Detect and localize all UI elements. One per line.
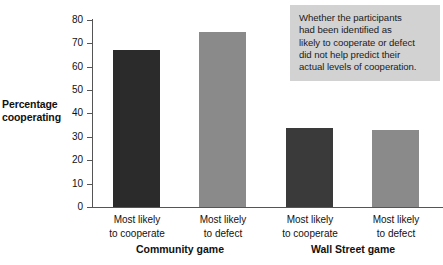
category-label-community-defect: Most likely to defect (175, 213, 271, 240)
category-label-line2: to defect (204, 228, 242, 239)
annotation-box: Whether the participants had been identi… (290, 5, 440, 81)
y-tick-label-10: 10 (72, 177, 83, 190)
bar-community-defect (199, 32, 246, 207)
group-label-community-game: Community game (85, 243, 275, 256)
bar-wallstreet-cooperate (286, 128, 333, 207)
y-tick-0: 0 (87, 207, 92, 208)
category-label-community-cooperate: Most likely to cooperate (89, 213, 185, 240)
y-tick-label-80: 80 (72, 13, 83, 26)
annotation-line-3: likely to cooperate or defect (299, 37, 415, 48)
y-tick-label-60: 60 (72, 60, 83, 73)
y-axis-title-line2: cooperating (2, 111, 61, 123)
category-label-line1: Most likely (287, 214, 334, 225)
bar-wallstreet-defect (372, 130, 419, 207)
category-label-line2: to cooperate (109, 228, 165, 239)
x-axis-line (92, 207, 443, 208)
y-axis-title-line1: Percentage (2, 98, 58, 110)
bar-chart: Percentage cooperating 80 70 60 50 40 30… (0, 0, 443, 265)
annotation-line-4: did not help predict their (299, 49, 400, 60)
annotation-line-2: had been identified as (299, 24, 392, 35)
annotation-line-5: actual levels of cooperation. (299, 61, 416, 72)
y-tick-label-70: 70 (72, 36, 83, 49)
y-tick-label-40: 40 (72, 106, 83, 119)
category-label-line1: Most likely (200, 214, 247, 225)
bar-community-cooperate (113, 50, 160, 207)
category-label-wallstreet-cooperate: Most likely to cooperate (262, 213, 358, 240)
y-tick-label-30: 30 (72, 130, 83, 143)
y-tick-label-0: 0 (77, 200, 83, 213)
y-tick-label-20: 20 (72, 153, 83, 166)
y-axis-title: Percentage cooperating (2, 98, 74, 123)
category-label-line1: Most likely (114, 214, 161, 225)
group-label-wall-street-game: Wall Street game (258, 243, 443, 256)
category-label-line1: Most likely (373, 214, 420, 225)
y-tick-label-50: 50 (72, 83, 83, 96)
annotation-line-1: Whether the participants (299, 12, 402, 23)
category-label-line2: to cooperate (282, 228, 338, 239)
category-label-wallstreet-defect: Most likely to defect (348, 213, 443, 240)
category-label-line2: to defect (377, 228, 415, 239)
